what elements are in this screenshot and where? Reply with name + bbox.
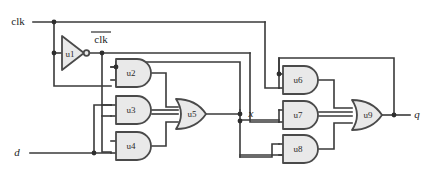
junction-clkbar-split [100,51,105,56]
junction-q-split [392,113,397,118]
wire-layer [30,22,410,157]
port-label-d: d [14,146,20,158]
gate-u2-and[interactable]: u2 [116,59,151,87]
gate-label-u4: u4 [127,141,137,151]
wire-u4-out-to-u5 [152,122,178,146]
gate-u1-inverter[interactable]: u1 [62,36,89,70]
junction-clk-split [52,20,57,25]
port-label-clk: clk [11,15,25,27]
gate-label-u2: u2 [127,68,136,78]
gate-label-u1: u1 [66,49,75,59]
gate-label-u6: u6 [294,75,304,85]
port-label-q: q [414,108,420,120]
junction-x-lower [238,119,243,124]
wire-u8-out-to-u9 [319,123,352,149]
wire-clk-to-u6 [265,22,279,88]
junction-u6-input-bus [277,72,282,77]
gate-label-u9: u9 [364,110,374,120]
gate-u9-or[interactable]: u9 [352,100,382,130]
gate-u5-or[interactable]: u5 [176,99,206,129]
u1-bubble [84,50,90,56]
gate-label-u8: u8 [294,144,304,154]
port-label-x: x [248,107,254,119]
gate-u7-and[interactable]: u7 [283,101,318,129]
junction-clk-inverter-in [52,51,57,56]
gate-u3-and[interactable]: u3 [116,96,151,124]
junction-x-upper [238,112,243,117]
junction-d-split [92,151,97,156]
wire-u2-out-to-u5 [152,73,178,107]
wire-u6-out-to-u9 [319,80,352,108]
gate-label-u7: u7 [294,110,304,120]
gate-label-u3: u3 [127,105,137,115]
circuit-canvas: u1 u2 u3 u4 u5 [0,0,427,172]
gate-u6-and[interactable]: u6 [283,66,318,94]
gate-u8-and[interactable]: u8 [283,135,318,163]
wire-clkbar-down-left [102,53,111,152]
junction-u2-input-bus [114,65,119,70]
port-label-clk-bar: clk [94,33,108,45]
gate-label-u5: u5 [188,109,198,119]
gate-u4-and[interactable]: u4 [116,132,151,160]
logic-circuit-diagram: u1 u2 u3 u4 u5 [0,0,427,172]
